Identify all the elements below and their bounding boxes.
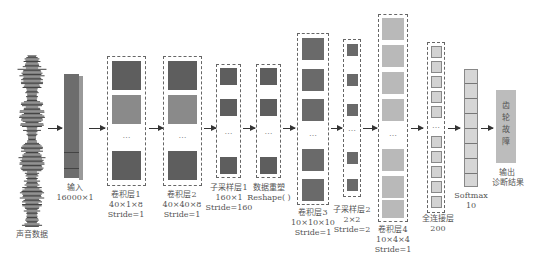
conv4-stride: Stride=1	[370, 245, 416, 255]
arrow-pool1-reshape	[243, 128, 255, 129]
softmax-dims: 10	[452, 201, 490, 211]
audio-waveform-icon	[14, 55, 50, 227]
audio-label: 声音数据	[8, 230, 56, 240]
fc-label: 全连接层	[418, 214, 458, 224]
input-block	[64, 74, 84, 178]
conv1-stride: Stride=1	[100, 210, 152, 220]
arrow-input-conv1	[89, 128, 105, 129]
pool2-stride: Stride=2	[330, 225, 374, 235]
pool2-dims: 2×2	[330, 215, 374, 225]
arrow-conv4-fc	[411, 128, 423, 129]
reshape-label: 数据重塑	[246, 183, 292, 193]
pool1-stride: Stride=160	[204, 203, 254, 213]
output-content: 齿轮故障	[501, 100, 511, 148]
conv1-dims: 40×1×8	[100, 200, 152, 210]
conv1-box: …	[107, 56, 146, 186]
conv2-dims: 40×40×8	[156, 200, 208, 210]
conv4-dims: 10×4×4	[370, 235, 416, 245]
arrow-pool2-conv4	[363, 128, 377, 129]
pool2-box: …	[343, 39, 361, 197]
arrow-fc-softmax	[448, 128, 460, 129]
softmax-label: Softmax	[452, 191, 490, 201]
conv2-label: 卷积层2	[156, 190, 208, 200]
output-block: 齿轮故障	[496, 90, 516, 163]
input-dims: 16000×1	[52, 193, 98, 203]
reshape-box: …	[256, 64, 281, 178]
pool2-label: 子采样层2	[330, 205, 374, 215]
conv1-label: 卷积层1	[100, 190, 152, 200]
softmax-block	[464, 69, 478, 187]
pool1-box: …	[216, 64, 241, 178]
arrow-softmax-output	[481, 128, 493, 129]
output-label: 输出	[490, 168, 524, 178]
conv3-box: …	[297, 33, 329, 205]
output-dims: 诊断结果	[486, 178, 530, 188]
arrow-conv1-conv2	[149, 128, 163, 129]
arrow-conv3-pool2	[331, 128, 342, 129]
conv2-stride: Stride=1	[156, 210, 208, 220]
conv4-box: …	[378, 14, 408, 222]
conv2-box: …	[163, 56, 202, 186]
arrow-reshape-conv3	[283, 128, 295, 129]
fc-box: …	[427, 42, 445, 213]
fc-dims: 200	[418, 224, 458, 234]
arrow-audio-input	[48, 128, 62, 129]
arrow-conv2-pool1	[204, 128, 216, 129]
reshape-dims: Reshape( )	[246, 193, 292, 203]
input-label: 输入	[60, 183, 90, 193]
conv4-label: 卷积层4	[370, 225, 416, 235]
